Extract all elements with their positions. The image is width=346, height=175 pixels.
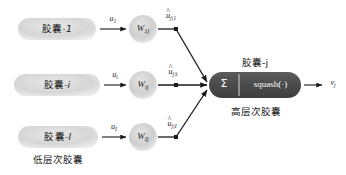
capsule-routing-diagram: 胶囊-1 胶囊-i 胶囊-I W1j Wij WIj u1 ui uI ^uj|… <box>0 0 346 175</box>
low-capsule-shape-2 <box>14 74 100 96</box>
junction-dot-1 <box>174 27 178 31</box>
weight-circle-shape-2 <box>129 71 157 99</box>
weight-circle-shape-1 <box>129 15 157 43</box>
low-capsule-shape-1 <box>18 18 96 40</box>
junction-dot-2 <box>174 83 178 87</box>
weight-circle-shape-3 <box>129 123 157 151</box>
low-capsule-shape-3 <box>18 126 98 148</box>
diagram-edges-layer <box>0 0 346 175</box>
prediction-arrow-3 <box>176 90 207 137</box>
prediction-arrow-1 <box>176 29 207 82</box>
junction-dot-3 <box>174 135 178 139</box>
high-capsule-shape <box>209 72 301 98</box>
